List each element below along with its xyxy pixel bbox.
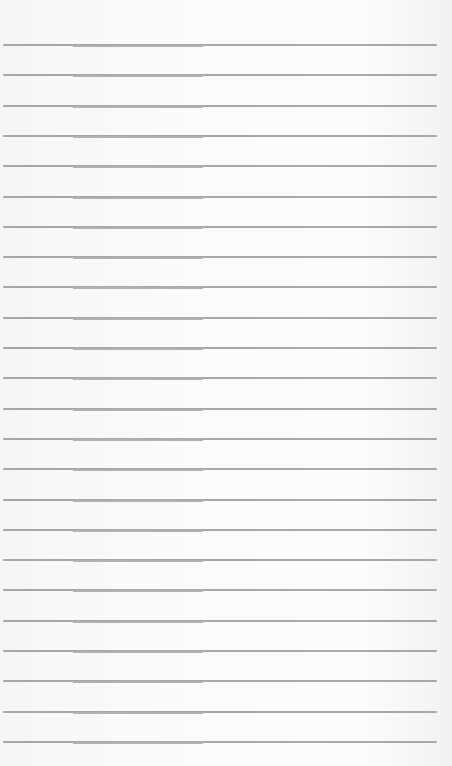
lined-paper — [0, 0, 452, 766]
ruled-line — [3, 589, 437, 591]
ruled-line — [3, 347, 437, 349]
ruled-line — [3, 196, 437, 198]
ruled-line — [3, 44, 437, 46]
ruled-line — [3, 650, 437, 652]
ruled-line — [3, 438, 437, 440]
ruled-line — [3, 256, 437, 258]
ruled-line — [3, 680, 437, 682]
ruled-line — [3, 317, 437, 319]
ruled-line — [3, 559, 437, 561]
ruled-line — [3, 226, 437, 228]
ruled-line — [3, 620, 437, 622]
ruled-line — [3, 165, 437, 167]
ruled-line — [3, 286, 437, 288]
ruled-line — [3, 468, 437, 470]
ruled-line — [3, 377, 437, 379]
ruled-line — [3, 529, 437, 531]
ruled-line — [3, 105, 437, 107]
ruled-line — [3, 499, 437, 501]
ruled-line — [3, 408, 437, 410]
ruled-line — [3, 74, 437, 76]
ruled-line — [3, 711, 437, 713]
ruled-line — [3, 741, 437, 743]
ruled-line — [3, 135, 437, 137]
